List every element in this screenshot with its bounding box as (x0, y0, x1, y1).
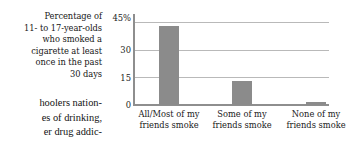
body-text-line: hoolers nation- (0, 96, 104, 111)
figure-caption-line: cigarette at least (2, 46, 102, 58)
y-tick-label: 0 (101, 101, 131, 110)
body-text-line: er drug addic- (0, 125, 104, 140)
left-text-column: Percentage of 11- to 17-year-olds who sm… (0, 0, 104, 147)
figure-caption-line: Percentage of (2, 11, 102, 23)
x-label-line: friends smoke (204, 120, 280, 131)
x-label-line: Some of my (204, 109, 280, 120)
x-label-line: friends smoke (131, 120, 207, 131)
gridline-45 (135, 22, 329, 23)
y-tick-label: 30 (101, 46, 131, 55)
x-axis-labels: All/Most of my friends smoke Some of my … (135, 109, 329, 141)
figure-caption-line: 30 days (2, 69, 102, 81)
y-tick-label: 45% (101, 14, 131, 23)
x-label-some: Some of my friends smoke (204, 109, 280, 130)
x-label-line: All/Most of my (131, 109, 207, 120)
bar-some-friends-smoke (232, 81, 252, 105)
figure-caption-line: 11- to 17-year-olds (2, 23, 102, 35)
x-label-line: None of my (278, 109, 350, 120)
bar-chart: 45% 30 15 0 All/Most of my friends smoke… (104, 0, 330, 147)
x-label-none: None of my friends smoke (278, 109, 350, 130)
y-axis-ticks: 45% 30 15 0 (104, 0, 131, 147)
bar-all-most-friends-smoke (159, 26, 179, 105)
figure-caption-line: once in the past (2, 57, 102, 69)
plot-area (135, 22, 329, 105)
x-label-all-most: All/Most of my friends smoke (131, 109, 207, 130)
x-label-line: friends smoke (278, 120, 350, 131)
body-text-line: es of drinking, (0, 111, 104, 126)
bar-none-friends-smoke (306, 102, 326, 105)
figure-caption-line: who smoked a (2, 34, 102, 46)
figure-caption: Percentage of 11- to 17-year-olds who sm… (2, 11, 102, 81)
y-tick-label: 15 (101, 74, 131, 83)
body-text-fragment: hoolers nation- es of drinking, er drug … (0, 96, 104, 140)
